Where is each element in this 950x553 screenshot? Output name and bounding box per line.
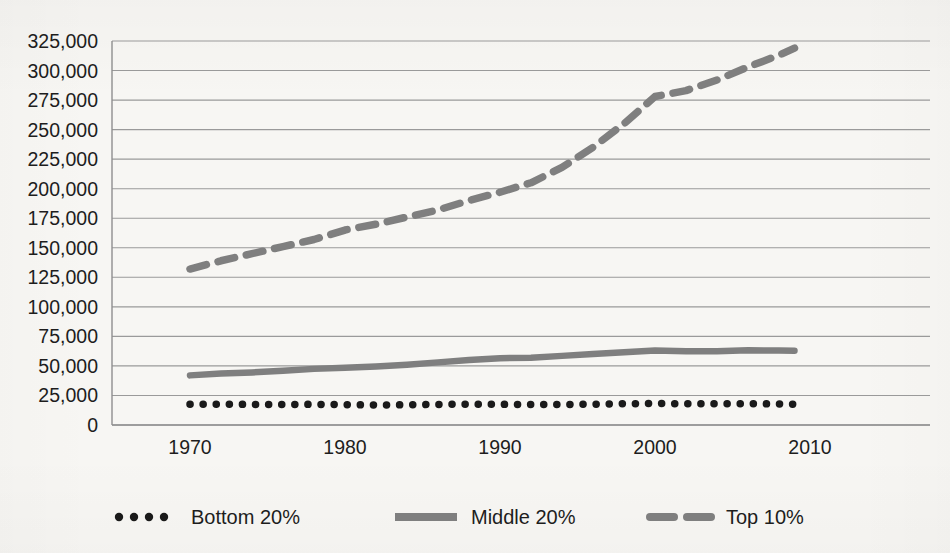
y-tick-label: 25,000 bbox=[38, 384, 98, 406]
y-tick-label: 225,000 bbox=[28, 148, 99, 170]
y-tick-label: 300,000 bbox=[28, 60, 99, 82]
chart-canvas: 025,00050,00075,000100,000125,000150,000… bbox=[0, 0, 950, 553]
axis-frame bbox=[112, 41, 930, 425]
series-line-middle-20 bbox=[190, 350, 795, 375]
legend-marker-dot bbox=[145, 513, 153, 521]
legend-item-middle-20[interactable]: Middle 20% bbox=[395, 506, 576, 528]
series-line-top-10 bbox=[190, 48, 795, 269]
y-tick-label: 100,000 bbox=[28, 296, 99, 318]
legend-label: Top 10% bbox=[726, 506, 804, 528]
x-tick-label: 1980 bbox=[323, 436, 367, 458]
series-line-bottom-20 bbox=[190, 404, 795, 406]
y-axis-tick-labels: 025,00050,00075,000100,000125,000150,000… bbox=[28, 30, 99, 436]
legend-marker-dot bbox=[115, 513, 123, 521]
y-tick-label: 200,000 bbox=[28, 178, 99, 200]
legend-marker-dot bbox=[160, 513, 168, 521]
y-tick-label: 125,000 bbox=[28, 266, 99, 288]
x-tick-label: 1970 bbox=[168, 436, 212, 458]
y-tick-label: 175,000 bbox=[28, 207, 99, 229]
y-tick-label: 150,000 bbox=[28, 237, 99, 259]
y-tick-label: 275,000 bbox=[28, 89, 99, 111]
line-chart-figure: 025,00050,00075,000100,000125,000150,000… bbox=[0, 0, 950, 553]
legend-label: Middle 20% bbox=[471, 506, 576, 528]
legend-label: Bottom 20% bbox=[191, 506, 300, 528]
legend-item-top-10[interactable]: Top 10% bbox=[650, 506, 804, 528]
y-tick-label: 250,000 bbox=[28, 119, 99, 141]
legend-marker-dot bbox=[130, 513, 138, 521]
chart-page: 025,00050,00075,000100,000125,000150,000… bbox=[0, 0, 950, 553]
y-tick-label: 325,000 bbox=[28, 30, 99, 52]
chart-legend: Bottom 20%Middle 20%Top 10% bbox=[115, 506, 804, 528]
y-tick-label: 50,000 bbox=[38, 355, 98, 377]
legend-item-bottom-20[interactable]: Bottom 20% bbox=[115, 506, 300, 528]
x-tick-label: 2000 bbox=[633, 436, 677, 458]
y-tick-label: 0 bbox=[87, 414, 98, 436]
data-series-group bbox=[190, 48, 795, 405]
x-tick-label: 2010 bbox=[788, 436, 832, 458]
y-tick-label: 75,000 bbox=[38, 325, 98, 347]
gridlines-group bbox=[112, 41, 930, 425]
x-axis-tick-labels: 19701980199020002010 bbox=[168, 436, 832, 458]
x-tick-label: 1990 bbox=[478, 436, 522, 458]
